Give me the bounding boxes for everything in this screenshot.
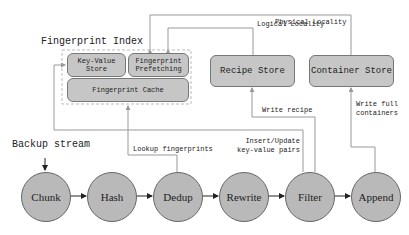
- lookup-label: Lookup fingerprints: [133, 145, 213, 153]
- fingerprint-cache-box: Fingerprint Cache: [67, 78, 189, 102]
- container-store-box: Container Store: [309, 55, 394, 87]
- node-dedup: Dedup: [153, 172, 203, 222]
- dedup-architecture-diagram: Fingerprint Index Key-Value Store Finger…: [0, 0, 409, 235]
- insert-update-label: Insert/Update key-value pairs: [237, 137, 300, 155]
- physical-locality-label: Physical Locality: [275, 18, 346, 26]
- node-append: Append: [351, 172, 401, 222]
- node-rewrite: Rewrite: [219, 172, 269, 222]
- write-recipe-label: Write recipe: [262, 106, 312, 114]
- node-chunk: Chunk: [21, 172, 71, 222]
- index-title: Fingerprint Index: [41, 36, 143, 47]
- fingerprint-prefetching-box: Fingerprint Prefetching: [128, 53, 189, 77]
- write-containers-label: Write full containers: [356, 100, 398, 118]
- backup-stream-label: Backup stream: [12, 139, 90, 150]
- node-filter: Filter: [285, 172, 335, 222]
- key-value-store-box: Key-Value Store: [67, 53, 126, 77]
- node-hash: Hash: [87, 172, 137, 222]
- recipe-store-box: Recipe Store: [210, 55, 295, 87]
